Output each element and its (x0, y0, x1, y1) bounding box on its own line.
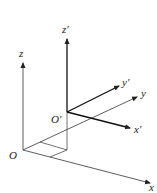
coordinate-diagram: O x y z O′ x′ y′ z′ (0, 0, 157, 193)
origin-label: O (9, 149, 17, 161)
x-label: x (148, 181, 154, 193)
fixed-frame (23, 63, 150, 183)
x-prime-label: x′ (133, 123, 142, 135)
y-prime-axis (67, 86, 119, 112)
projection-line (50, 150, 67, 157)
projection-line (40, 142, 67, 150)
z-label: z (18, 47, 24, 59)
y-label: y (140, 87, 146, 99)
x-axis (23, 150, 150, 183)
x-prime-axis (67, 112, 130, 128)
origin-prime-label: O′ (51, 113, 62, 125)
y-prime-label: y′ (121, 76, 130, 88)
z-prime-label: z′ (61, 23, 69, 35)
